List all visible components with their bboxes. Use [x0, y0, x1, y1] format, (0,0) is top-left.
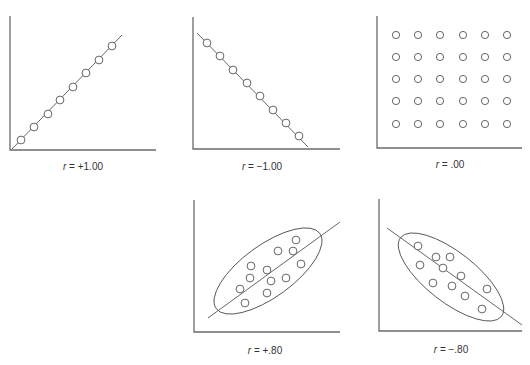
correlation-figure: r = +1.00 r = −1.00 r = .00 r = +.80 r =…: [0, 0, 530, 365]
data-point: [289, 247, 297, 255]
regression-line: [387, 228, 522, 325]
regression-line: [208, 222, 340, 318]
regression-line: [12, 35, 122, 149]
data-point: [481, 75, 488, 82]
data-point: [246, 274, 254, 282]
data-point: [241, 299, 249, 307]
data-point: [503, 120, 510, 127]
data-point: [414, 97, 421, 104]
data-point: [436, 97, 443, 104]
data-point: [30, 123, 38, 131]
data-point: [459, 120, 466, 127]
data-point: [503, 31, 510, 38]
data-point: [503, 53, 510, 60]
data-point: [461, 292, 469, 300]
data-point: [274, 247, 282, 255]
data-point: [436, 75, 443, 82]
data-point: [297, 260, 305, 268]
data-point: [429, 279, 437, 287]
data-point: [392, 97, 399, 104]
data-point: [56, 96, 64, 104]
data-point: [459, 31, 466, 38]
data-point: [416, 261, 424, 269]
data-point: [44, 110, 52, 118]
data-point: [448, 282, 456, 290]
data-point: [432, 253, 440, 261]
data-point: [216, 52, 224, 60]
data-point: [446, 253, 454, 261]
correlation-label: r = +.80: [248, 345, 283, 356]
data-point: [457, 272, 465, 280]
data-point: [292, 236, 300, 244]
data-point: [95, 56, 103, 64]
scatter-panel-positive-strong: r = +.80: [194, 200, 340, 356]
data-point: [483, 285, 491, 293]
data-point: [229, 66, 237, 74]
axes: [379, 199, 522, 331]
data-point: [503, 97, 510, 104]
correlation-label: r = .00: [436, 159, 465, 170]
data-point: [436, 53, 443, 60]
correlation-label: r = −.80: [434, 344, 469, 355]
regression-line: [197, 33, 308, 147]
data-point: [236, 285, 244, 293]
axes: [193, 17, 340, 149]
scatter-panel-positive-perfect: r = +1.00: [10, 16, 156, 172]
data-point: [392, 31, 399, 38]
data-point: [439, 264, 447, 272]
scatter-panel-negative-strong: r = −.80: [379, 199, 522, 355]
data-point: [459, 53, 466, 60]
data-point: [69, 83, 77, 91]
correlation-label: r = −1.00: [242, 161, 282, 172]
data-point: [392, 75, 399, 82]
data-point: [436, 31, 443, 38]
data-point: [82, 69, 90, 77]
data-point: [459, 75, 466, 82]
data-point: [269, 106, 277, 114]
data-point: [459, 97, 466, 104]
data-point: [203, 39, 211, 47]
data-point: [481, 53, 488, 60]
data-point: [414, 75, 421, 82]
data-point: [481, 120, 488, 127]
scatter-panel-zero-correlation: r = .00: [377, 16, 522, 170]
scatter-panel-negative-perfect: r = −1.00: [193, 17, 340, 172]
data-point: [243, 79, 251, 87]
data-point: [263, 266, 271, 274]
data-point: [414, 242, 422, 250]
data-point: [481, 31, 488, 38]
enclosing-ellipse: [385, 218, 517, 336]
data-point: [436, 120, 443, 127]
data-point: [247, 262, 255, 270]
data-point: [282, 119, 290, 127]
data-point: [108, 42, 116, 50]
correlation-label: r = +1.00: [63, 161, 103, 172]
data-point: [414, 31, 421, 38]
data-point: [17, 136, 25, 144]
data-point: [503, 75, 510, 82]
data-point: [267, 277, 275, 285]
data-point: [295, 132, 303, 140]
data-point: [478, 305, 486, 313]
data-point: [256, 92, 264, 100]
data-point: [414, 120, 421, 127]
data-point: [282, 274, 290, 282]
data-point: [414, 53, 421, 60]
data-point: [263, 289, 271, 297]
data-point: [392, 120, 399, 127]
data-point: [392, 53, 399, 60]
data-point: [481, 97, 488, 104]
